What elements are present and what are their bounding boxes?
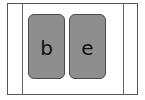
letter-tile-e[interactable]: e: [69, 14, 106, 79]
rack-left-divider: [22, 3, 23, 95]
letter-tile-b[interactable]: b: [28, 14, 65, 79]
rack-right-divider: [123, 3, 124, 95]
tile-letter: b: [40, 38, 53, 58]
tile-letter: e: [81, 38, 93, 58]
